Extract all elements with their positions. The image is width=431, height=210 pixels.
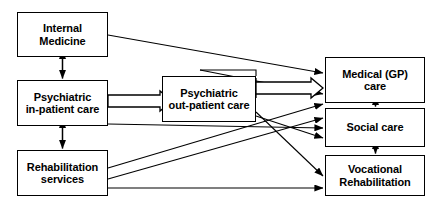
edge-outpatient-vocational — [256, 112, 323, 176]
node-vocational-rehabilitation[interactable]: Vocational Rehabilitation — [325, 155, 425, 196]
node-label-psychiatric-inpatient-care: Psychiatric in-patient care — [24, 91, 102, 116]
edge-internalmedicine-gpcare — [108, 35, 323, 73]
node-rehabilitation-services[interactable]: Rehabilitation services — [17, 150, 108, 196]
edge-outpatient-gpcare-hollow — [256, 78, 323, 98]
service-linkage-diagram: Internal Medicine Psychiatric in-patient… — [0, 0, 431, 210]
node-label-psychiatric-outpatient-care: Psychiatric out-patient care — [167, 87, 252, 112]
node-label-social-care: Social care — [345, 121, 406, 133]
node-label-internal-medicine: Internal Medicine — [37, 22, 87, 47]
node-social-care[interactable]: Social care — [325, 108, 425, 147]
node-label-rehabilitation-services: Rehabilitation services — [25, 161, 100, 186]
node-label-vocational-rehabilitation: Vocational Rehabilitation — [337, 163, 412, 188]
node-medical-gp-care[interactable]: Medical (GP) care — [325, 57, 425, 103]
node-psychiatric-inpatient-care[interactable]: Psychiatric in-patient care — [17, 80, 108, 126]
node-internal-medicine[interactable]: Internal Medicine — [17, 12, 108, 57]
node-label-medical-gp-care: Medical (GP) care — [340, 68, 409, 93]
node-psychiatric-outpatient-care[interactable]: Psychiatric out-patient care — [162, 76, 256, 122]
